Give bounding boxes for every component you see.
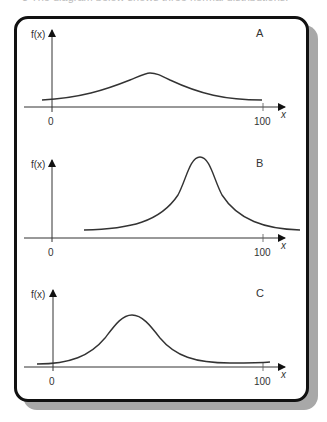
tick-0-a: 0 xyxy=(48,116,54,127)
distribution-diagrams: f(x) 0 100 x A f(x) 0 100 x B f(x) 0 100… xyxy=(0,0,327,422)
x-axis-label-b: x xyxy=(280,240,287,251)
panel-label-a: A xyxy=(256,27,264,39)
y-axis-label-a: f(x) xyxy=(31,29,45,40)
panel-label-b: B xyxy=(256,157,263,169)
tick-100-b: 100 xyxy=(254,247,271,258)
x-axis-label-c: x xyxy=(280,369,287,380)
y-axis-label-b: f(x) xyxy=(31,159,45,170)
panel-a: f(x) 0 100 x A xyxy=(24,27,287,127)
curve-b xyxy=(84,157,300,230)
x-axis-label-a: x xyxy=(280,109,287,120)
curve-c xyxy=(37,315,270,364)
tick-0-b: 0 xyxy=(48,247,54,258)
curve-a xyxy=(42,73,262,100)
tick-100-c: 100 xyxy=(254,376,271,387)
panel-label-c: C xyxy=(256,287,264,299)
tick-0-c: 0 xyxy=(49,376,55,387)
panel-b: f(x) 0 100 x B xyxy=(24,157,300,258)
panel-c: f(x) 0 100 x C xyxy=(24,287,287,387)
y-axis-label-c: f(x) xyxy=(31,289,45,300)
tick-100-a: 100 xyxy=(254,116,271,127)
